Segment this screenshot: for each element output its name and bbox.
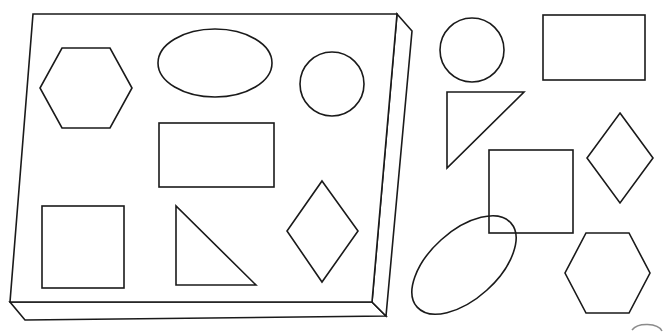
loose-shape-right-triangle[interactable] bbox=[447, 92, 524, 168]
loose-shape-hexagon[interactable] bbox=[565, 233, 650, 313]
tray-front-face bbox=[10, 302, 386, 320]
loose-shape-diamond[interactable] bbox=[587, 113, 653, 203]
loose-shapes-group bbox=[394, 15, 653, 332]
tray-group[interactable] bbox=[10, 14, 412, 320]
shapes-illustration bbox=[0, 0, 670, 333]
loose-shape-circle[interactable] bbox=[440, 18, 504, 82]
partial-marks-group bbox=[632, 325, 662, 331]
loose-shape-square[interactable] bbox=[489, 150, 573, 233]
loose-shape-ellipse[interactable] bbox=[394, 198, 533, 333]
cropped-arc-icon bbox=[632, 325, 662, 331]
loose-shape-rectangle[interactable] bbox=[543, 15, 645, 80]
